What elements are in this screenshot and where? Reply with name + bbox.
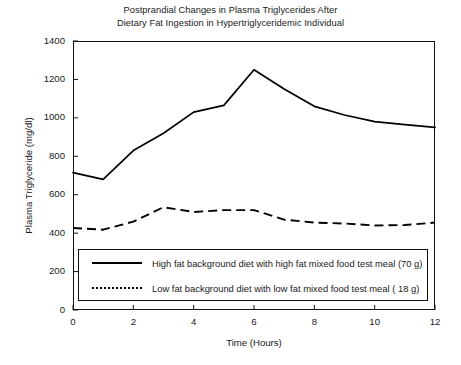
series-line-high-fat: [73, 70, 435, 180]
legend-swatch-solid-line-icon: [92, 257, 142, 269]
chart-figure: Postprandial Changes in Plasma Triglycer…: [0, 0, 461, 365]
legend-swatch-dotted-line-icon: [92, 282, 142, 294]
legend-label-high-fat: High fat background diet with high fat m…: [152, 258, 422, 269]
series-line-low-fat: [73, 207, 435, 229]
legend-item-low-fat: Low fat background diet with low fat mix…: [79, 275, 427, 301]
data-layer: [0, 0, 461, 365]
legend-item-high-fat: High fat background diet with high fat m…: [79, 250, 427, 276]
legend-label-low-fat: Low fat background diet with low fat mix…: [152, 283, 419, 294]
chart-legend: High fat background diet with high fat m…: [78, 249, 428, 301]
